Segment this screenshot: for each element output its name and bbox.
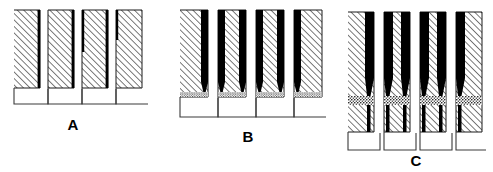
panel-b-deposit-wedge: [256, 10, 263, 97]
panel-b-deposit-wedge: [294, 10, 301, 97]
panel-a-deposit-liner: [72, 10, 75, 88]
panel-c-stipple-band: [384, 96, 410, 105]
panel-c-stipple-band: [420, 96, 446, 105]
panel-label-c: C: [411, 152, 422, 169]
panel-label-b: B: [243, 128, 254, 145]
panel-a-deposit-liner: [38, 10, 41, 88]
panel-a-deposit-liner-partial: [82, 10, 84, 52]
panel-b-deposit-wedge: [201, 10, 208, 97]
panel-b-deposit-wedge: [239, 10, 246, 97]
panel-b-stipple-floor: [218, 92, 246, 97]
panel-c-wall: [456, 12, 486, 150]
panel-b-deposit-wedge: [277, 10, 284, 97]
panel-b-stipple-floor: [180, 92, 208, 97]
trench-deposition-figure: A: [0, 0, 493, 172]
panel-b-stipple-floor: [294, 92, 322, 97]
panel-a-deposit-liner: [106, 10, 109, 88]
panel-c-stipple-band: [348, 96, 374, 105]
panel-label-a: A: [68, 116, 79, 133]
panel-a-deposit-liner-partial: [116, 10, 118, 40]
panel-c-stipple-band: [456, 96, 482, 105]
panel-b-stipple-floor: [256, 92, 284, 97]
panel-b-deposit-wedge: [218, 10, 225, 97]
